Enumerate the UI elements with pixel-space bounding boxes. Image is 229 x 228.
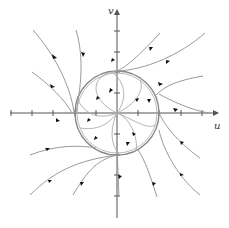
u-axis-label: u (214, 120, 220, 131)
arrow-icon (166, 60, 170, 64)
arrow-icon (80, 182, 84, 186)
arrow-icon (56, 118, 60, 122)
arrow-icon (149, 47, 153, 51)
arrow-icon (126, 142, 130, 146)
arrow-icon (111, 58, 115, 62)
arrow-icon (48, 180, 52, 183)
arrow-icon (94, 136, 98, 140)
v-axis-label: v (108, 5, 114, 16)
phase-portrait (0, 0, 229, 228)
arrow-icon (152, 182, 156, 186)
arrow-icon (81, 52, 85, 57)
arrow-icon (147, 99, 151, 103)
arrow-icon (52, 54, 57, 59)
arrow-icon (173, 108, 178, 112)
arrow-icon (109, 88, 113, 93)
arrow-icon (180, 173, 184, 176)
arrow-icon (158, 82, 163, 86)
arrow-icon (87, 118, 91, 122)
